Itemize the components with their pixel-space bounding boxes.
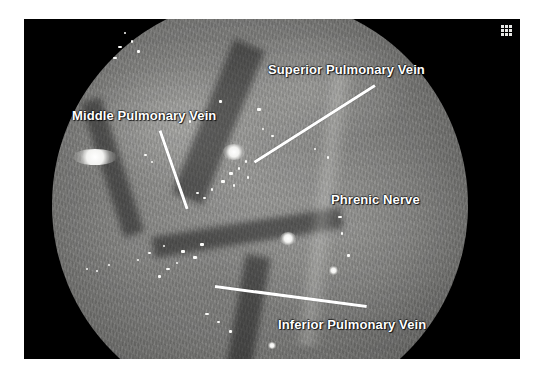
surgical-clip-reflection <box>166 268 170 270</box>
surgical-clip-reflection <box>238 167 240 170</box>
surgical-clip-reflection <box>338 216 342 218</box>
surgical-clip-reflection <box>229 330 232 333</box>
surgical-clip-reflection <box>271 135 274 137</box>
surgical-clip-reflection <box>219 100 222 103</box>
surgical-clip-reflection <box>229 172 233 175</box>
surgical-clip-reflection <box>257 108 261 111</box>
surgical-clip-reflection <box>137 50 140 53</box>
specular-left <box>73 149 117 165</box>
surgical-clip-reflection <box>176 262 178 264</box>
surgical-clip-reflection <box>211 188 213 191</box>
surgical-clip-reflection <box>86 268 88 270</box>
surgical-clip-reflection <box>314 148 316 150</box>
surgical-clip-reflection <box>144 154 147 156</box>
surgical-clip-reflection <box>151 161 153 163</box>
surgical-clip-reflection <box>131 40 133 43</box>
surgical-clip-reflection <box>262 128 264 130</box>
surgical-clip-reflection <box>118 46 122 48</box>
surgical-clip-reflection <box>341 232 343 235</box>
surgical-clip-reflection <box>200 243 204 246</box>
surgical-clip-reflection <box>137 259 139 261</box>
surgical-clip-reflection <box>181 250 185 253</box>
surgical-clip-reflection <box>163 245 165 247</box>
surgical-clip-reflection <box>148 252 151 254</box>
surgical-clip-reflection <box>217 321 220 323</box>
surgical-clip-reflection <box>205 313 209 315</box>
annotation-label-inferior-pulmonary-vein: Inferior Pulmonary Vein <box>278 317 426 332</box>
figure-root: Superior Pulmonary Vein Middle Pulmonary… <box>0 0 542 373</box>
surgical-clip-reflection <box>124 32 126 34</box>
specular-bottom <box>268 342 276 349</box>
surgical-clip-reflection <box>245 160 247 163</box>
surgical-clip-reflection <box>247 176 249 179</box>
annotation-label-phrenic-nerve: Phrenic Nerve <box>331 192 420 207</box>
surgical-clip-reflection <box>96 270 98 272</box>
surgical-clip-reflection <box>113 57 117 59</box>
surgical-clip-reflection <box>347 254 350 257</box>
surgical-clip-reflection <box>193 256 197 259</box>
surgical-clip-reflection <box>221 180 225 183</box>
surgical-clip-reflection <box>233 184 235 187</box>
specular-low <box>329 266 338 275</box>
annotation-label-middle-pulmonary-vein: Middle Pulmonary Vein <box>72 108 216 123</box>
surgical-clip-reflection <box>108 264 110 266</box>
specular-center <box>223 144 245 160</box>
surgical-clip-reflection <box>158 275 161 278</box>
specular-midright <box>280 232 296 245</box>
surgical-clip-reflection <box>203 197 206 199</box>
annotation-label-superior-pulmonary-vein: Superior Pulmonary Vein <box>268 62 425 77</box>
surgical-clip-reflection <box>327 156 329 159</box>
surgical-clip-reflection <box>196 192 199 194</box>
grid-3x3-icon <box>501 25 512 36</box>
